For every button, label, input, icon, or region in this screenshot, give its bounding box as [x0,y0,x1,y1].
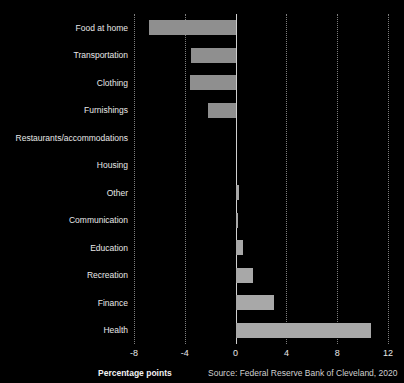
y-axis-label-communication: Communication [0,215,128,225]
bar-clothing [190,75,236,90]
chart-bar-row [134,42,388,70]
x-axis-tick-labels: -8-404812 [134,348,388,362]
chart-figure: Food at homeTransportationClothingFurnis… [0,0,404,383]
y-axis-label-health: Health [0,325,128,335]
chart-bar-row [134,289,388,317]
chart-bar-row [134,97,388,125]
chart-bar-row [134,124,388,152]
chart-footer: Percentage points Source: Federal Reserv… [0,368,404,383]
x-tick-label-12: 12 [383,348,393,358]
chart-bar-row [134,207,388,235]
bar-health [236,323,372,338]
chart-bar-row [134,317,388,345]
chart-bar-row [134,152,388,180]
x-tick-label-4: 4 [284,348,289,358]
bar-food-at-home [149,20,235,35]
y-axis-label-education: Education [0,243,128,253]
x-tick-label-neg4: -4 [181,348,189,358]
x-axis-title: Percentage points [98,368,172,378]
source-note: Source: Federal Reserve Bank of Clevelan… [208,368,397,378]
plot-area [134,14,388,344]
chart-bar-row [134,234,388,262]
y-axis-label-transportation: Transportation [0,50,128,60]
chart-bar-row [134,179,388,207]
bar-finance [236,295,274,310]
chart-bar-row [134,14,388,42]
y-axis-label-housing: Housing [0,160,128,170]
x-tick-label-8: 8 [335,348,340,358]
clipped-title-strip [0,0,404,11]
chart-bar-row [134,262,388,290]
y-axis-label-finance: Finance [0,298,128,308]
x-tick-label-neg8: -8 [130,348,138,358]
y-axis-labels: Food at homeTransportationClothingFurnis… [0,14,128,344]
bar-other [236,185,240,200]
chart-bar-row [134,69,388,97]
x-tick-label-0: 0 [233,348,238,358]
y-axis-label-other: Other [0,188,128,198]
bar-communication [236,213,239,228]
gridline-12 [388,14,389,344]
bar-recreation [236,268,254,283]
y-axis-label-restaurants-accommodations: Restaurants/accommodations [0,133,128,143]
y-axis-label-clothing: Clothing [0,78,128,88]
y-axis-label-furnishings: Furnishings [0,105,128,115]
bar-transportation [191,48,235,63]
y-axis-label-food-at-home: Food at home [0,23,128,33]
y-axis-label-recreation: Recreation [0,270,128,280]
bar-furnishings [208,103,236,118]
bar-education [236,240,244,255]
